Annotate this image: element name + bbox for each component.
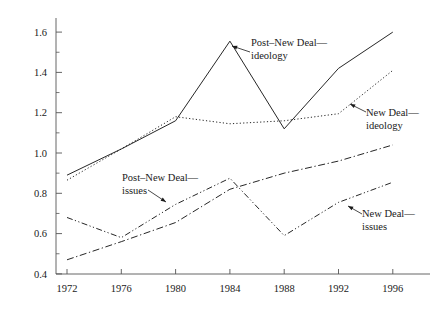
x-tick-label: 1996 [382,283,403,294]
line-chart-canvas: 0.40.60.81.01.21.41.6 197219761980198419… [0,0,436,312]
annotation-label-line2: ideology [366,120,419,133]
y-tick-label: 1.0 [34,148,47,159]
annotation-label-line2: issues [362,221,415,234]
x-tick-label: 1992 [328,283,349,294]
annotation-label-post-new-deal-ideology: Post–New Deal—ideology [251,37,327,62]
series-line [67,145,393,260]
annotation-label-line2: ideology [251,50,327,63]
annotation-arrow-head [161,197,166,202]
x-tick-label: 1972 [57,283,78,294]
x-axis-ticks [67,269,393,274]
y-tick-label: 1.6 [34,27,47,38]
annotation-arrow-head [348,206,354,210]
x-axis-tick-labels: 1972197619801984198819921996 [57,283,404,294]
chart-axes [56,18,430,274]
x-tick-label: 1980 [165,283,186,294]
x-tick-label: 1984 [219,283,241,294]
annotation-label-line1: New Deal— [362,208,415,221]
annotation-label-new-deal-ideology: New Deal—ideology [366,107,419,132]
annotation-arrow-head [350,104,356,108]
annotation-label-post-new-deal-issues: Post–New Deal—issues [122,172,198,197]
x-tick-label: 1988 [274,283,295,294]
x-tick-label: 1976 [111,283,132,294]
annotation-label-new-deal-issues: New Deal—issues [362,208,415,233]
y-tick-label: 0.4 [34,269,48,280]
series-line [67,32,393,175]
series-line [67,178,393,237]
y-tick-label: 1.4 [34,67,48,78]
y-axis-ticks [56,32,62,274]
chart-root: 0.40.60.81.01.21.41.6 197219761980198419… [0,0,436,312]
y-tick-label: 1.2 [34,107,47,118]
y-tick-label: 0.6 [34,228,47,239]
y-tick-label: 0.8 [34,188,47,199]
series-line [67,70,393,180]
y-axis-tick-labels: 0.40.60.81.01.21.41.6 [34,27,48,280]
annotation-label-line1: Post–New Deal— [251,37,327,50]
annotation-label-line1: Post–New Deal— [122,172,198,185]
chart-series-group [67,32,393,260]
annotation-label-line1: New Deal— [366,107,419,120]
annotation-label-line2: issues [122,185,198,198]
